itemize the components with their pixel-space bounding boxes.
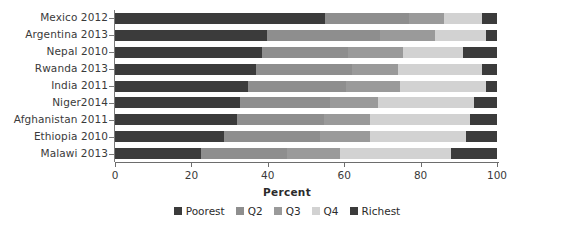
legend-item-q4[interactable]: Q4: [312, 205, 339, 217]
bar-row: [115, 64, 497, 75]
bar-segment-q3: [330, 97, 378, 108]
legend-swatch-icon: [236, 207, 244, 215]
bar-row: [115, 97, 497, 108]
bar-segment-q4: [378, 97, 474, 108]
x-axis-tick: [268, 162, 269, 167]
y-axis-tick: [109, 52, 114, 53]
bar-segment-q4: [370, 114, 470, 125]
bar-row: [115, 114, 497, 125]
x-axis-tick-label: 60: [338, 169, 351, 181]
bar-row: [115, 131, 497, 142]
y-axis-tick: [109, 120, 114, 121]
y-axis-category-labels: Mexico 2012Argentina 2013Nepal 2010Rwand…: [0, 10, 108, 162]
legend-item-q3[interactable]: Q3: [274, 205, 301, 217]
x-axis-tick: [344, 162, 345, 167]
bar-segment-richest: [466, 131, 497, 142]
bar-segment-q4: [403, 47, 463, 58]
bar-segment-richest: [470, 114, 497, 125]
bar-segment-poorest: [115, 64, 256, 75]
bar-segment-poorest: [115, 47, 262, 58]
y-axis-label-india-2011: India 2011: [0, 79, 108, 91]
bar-row: [115, 30, 497, 41]
legend-swatch-icon: [350, 207, 358, 215]
bar-segment-q4: [340, 148, 451, 159]
bar-segment-q2: [256, 64, 352, 75]
bar-segment-q2: [201, 148, 287, 159]
bar-segment-q3: [324, 114, 370, 125]
x-axis-tick-label: 40: [261, 169, 274, 181]
x-axis-tick-label: 20: [185, 169, 198, 181]
bar-segment-poorest: [115, 148, 201, 159]
bar-segment-richest: [486, 81, 497, 92]
bar-segment-richest: [474, 97, 497, 108]
bar-segment-richest: [482, 64, 497, 75]
bar-segment-q4: [400, 81, 486, 92]
x-axis-tick: [497, 162, 498, 167]
y-axis-tick: [109, 137, 114, 138]
plot-area: [115, 10, 497, 162]
legend-swatch-icon: [312, 207, 320, 215]
bar-segment-q2: [267, 30, 380, 41]
y-axis-tick: [109, 86, 114, 87]
legend-label: Poorest: [186, 205, 225, 217]
y-axis-label-niger2014: Niger2014: [0, 96, 108, 108]
x-axis-title: Percent: [0, 186, 574, 198]
bar-segment-q3: [287, 148, 340, 159]
legend-item-richest[interactable]: Richest: [350, 205, 401, 217]
bar-segment-poorest: [115, 131, 224, 142]
bar-segment-q2: [224, 131, 320, 142]
y-axis-tick: [109, 69, 114, 70]
y-axis-label-afghanistan-2011: Afghanistan 2011: [0, 113, 108, 125]
bar-row: [115, 81, 497, 92]
bar-segment-q2: [240, 97, 331, 108]
bar-segment-q4: [398, 64, 482, 75]
bar-segment-q2: [262, 47, 348, 58]
bar-segment-poorest: [115, 30, 267, 41]
bar-row: [115, 47, 497, 58]
y-axis-tick: [109, 103, 114, 104]
bar-row: [115, 148, 497, 159]
x-axis-tick-label: 80: [414, 169, 427, 181]
legend-label: Q4: [324, 205, 339, 217]
y-axis-tick: [109, 18, 114, 19]
bar-segment-poorest: [115, 114, 237, 125]
bar-segment-richest: [451, 148, 497, 159]
bar-segment-q3: [352, 64, 398, 75]
x-axis-tick: [191, 162, 192, 167]
x-axis-tick-label: 0: [112, 169, 119, 181]
legend-item-poorest[interactable]: Poorest: [174, 205, 225, 217]
y-axis-label-ethiopia-2010: Ethiopia 2010: [0, 130, 108, 142]
bar-segment-q3: [320, 131, 370, 142]
y-axis-tick: [109, 154, 114, 155]
legend-label: Q2: [248, 205, 263, 217]
legend-swatch-icon: [174, 207, 182, 215]
bar-segment-q2: [248, 81, 346, 92]
bar-segment-poorest: [115, 13, 325, 24]
bar-segment-poorest: [115, 97, 240, 108]
chart-figure: Mexico 2012Argentina 2013Nepal 2010Rwand…: [0, 0, 574, 235]
bar-row: [115, 13, 497, 24]
bar-segment-q3: [348, 47, 403, 58]
bar-segment-q3: [346, 81, 399, 92]
legend-item-q2[interactable]: Q2: [236, 205, 263, 217]
chart-legend: PoorestQ2Q3Q4Richest: [0, 205, 574, 217]
bar-segment-q4: [435, 30, 485, 41]
legend-label: Richest: [362, 205, 401, 217]
y-axis-label-malawi-2013: Malawi 2013: [0, 147, 108, 159]
bar-segment-richest: [486, 30, 497, 41]
y-axis-label-nepal-2010: Nepal 2010: [0, 45, 108, 57]
bar-segment-poorest: [115, 81, 248, 92]
legend-swatch-icon: [274, 207, 282, 215]
y-axis-label-mexico-2012: Mexico 2012: [0, 11, 108, 23]
y-axis-label-rwanda-2013: Rwanda 2013: [0, 62, 108, 74]
legend-label: Q3: [286, 205, 301, 217]
x-axis-tick-label: 100: [487, 169, 507, 181]
bar-segment-q4: [444, 13, 482, 24]
bar-segment-q3: [380, 30, 435, 41]
y-axis-label-argentina-2013: Argentina 2013: [0, 28, 108, 40]
bar-segment-q3: [409, 13, 443, 24]
bar-segment-richest: [482, 13, 497, 24]
x-axis-tick: [421, 162, 422, 167]
x-axis-line: [115, 162, 499, 163]
x-axis-tick: [115, 162, 116, 167]
